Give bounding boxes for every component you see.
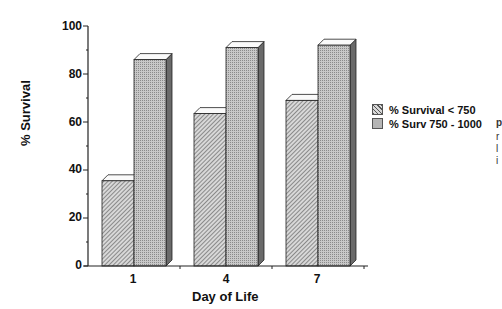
y-tick-60: 60: [52, 115, 82, 129]
bar-surv-750-1000-day-4: [226, 48, 258, 266]
cutoff-text: p: [496, 117, 502, 128]
y-tick-80: 80: [52, 67, 82, 81]
bar-top-face: [226, 42, 264, 48]
legend-swatch-dots-icon: [372, 118, 383, 129]
bar-survival-lt-750-day-1: [102, 181, 134, 266]
bars-group: [102, 39, 356, 266]
y-tick-20: 20: [52, 210, 82, 224]
bar-side-face: [258, 42, 264, 266]
bar-survival-lt-750-day-4: [194, 114, 226, 266]
bar-surv-750-1000-day-7: [318, 45, 350, 266]
legend-label: % Surv 750 - 1000: [389, 118, 482, 130]
cutoff-text: r: [496, 131, 499, 142]
legend-swatch-hatch-icon: [372, 104, 383, 115]
x-tick-7: 7: [302, 272, 332, 286]
cutoff-text: l: [496, 143, 498, 154]
bar-survival-lt-750-day-7: [286, 100, 318, 266]
bar-side-face: [350, 39, 356, 266]
y-tick-100: 100: [52, 19, 82, 33]
x-axis-label: Day of Life: [192, 289, 258, 304]
y-tick-0: 0: [52, 258, 82, 272]
cutoff-text: i: [496, 155, 498, 166]
y-tick-40: 40: [52, 162, 82, 176]
y-axis-label: % Survival: [18, 80, 33, 146]
legend-label: % Survival < 750: [389, 104, 476, 116]
legend-item-surv-750-1000: % Surv 750 - 1000: [372, 118, 482, 130]
x-tick-4: 4: [211, 272, 241, 286]
x-tick-1: 1: [118, 272, 148, 286]
bar-side-face: [166, 54, 172, 266]
legend-item-survival-lt-750: % Survival < 750: [372, 104, 476, 116]
bar-top-face: [134, 54, 172, 60]
bar-surv-750-1000-day-1: [134, 60, 166, 266]
bar-top-face: [318, 39, 356, 45]
